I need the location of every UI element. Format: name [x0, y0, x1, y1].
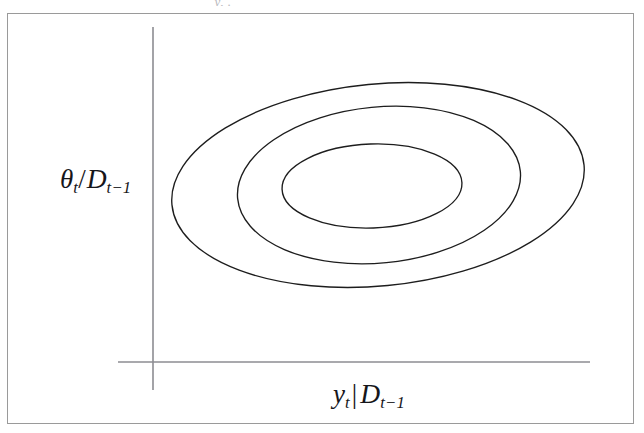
- y-axis-label: θt/Dt−1: [60, 163, 131, 198]
- y-axis-label-conditional-subscript: t−1: [107, 178, 132, 197]
- x-axis-label-conditional: D: [360, 378, 380, 409]
- y-axis-label-separator: /: [78, 164, 87, 194]
- contour-plot-canvas: [0, 0, 644, 433]
- x-axis-label-conditional-subscript: t−1: [380, 393, 405, 412]
- middle-contour-ellipse: [230, 94, 528, 277]
- figure-page: y, . θt/Dt−1 yt|Dt−1: [0, 0, 644, 433]
- x-axis-label-symbol: y: [333, 379, 345, 409]
- outer-contour-ellipse: [162, 65, 593, 306]
- y-axis-label-symbol: θ: [60, 164, 73, 194]
- y-axis-label-conditional: D: [87, 163, 107, 194]
- x-axis-label-separator: |: [350, 379, 360, 409]
- x-axis-label: yt|Dt−1: [333, 378, 405, 413]
- inner-contour-ellipse: [281, 141, 464, 231]
